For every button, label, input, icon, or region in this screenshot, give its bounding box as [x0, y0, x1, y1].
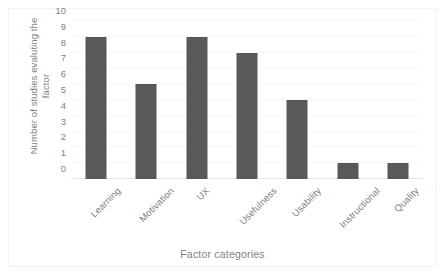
x-axis-category-labels: LearningMotivationUXUsefulnessUsabilityI… — [71, 183, 423, 243]
y-axis-tick-label: 2 — [61, 131, 66, 142]
bar[interactable] — [337, 163, 358, 179]
x-axis-tick-label: Motivation — [137, 185, 176, 224]
bar[interactable] — [287, 100, 308, 179]
y-axis-tick-label: 7 — [61, 52, 66, 63]
bar[interactable] — [236, 53, 257, 179]
y-axis-tick-label: 6 — [61, 68, 66, 79]
bar-slot — [71, 21, 121, 179]
bar[interactable] — [186, 37, 207, 179]
y-axis-tick-label: 0 — [61, 163, 66, 174]
y-axis-title: Number of studies evaluting the factor — [28, 6, 62, 166]
x-label-slot: Usability — [272, 183, 322, 243]
plot-area: 109876543210 — [71, 21, 423, 179]
bars-group — [71, 21, 423, 179]
bar-slot — [172, 21, 222, 179]
bar-slot — [373, 21, 423, 179]
y-axis-tick-label: 1 — [61, 147, 66, 158]
y-axis-title-line-2: factor — [40, 6, 52, 166]
y-axis-title-line-1: Number of studies evaluting the — [28, 6, 40, 166]
y-axis-tick-label: 10 — [55, 5, 66, 16]
bar-slot — [322, 21, 372, 179]
bar[interactable] — [136, 84, 157, 179]
bar[interactable] — [387, 163, 408, 179]
x-label-slot: Instructional — [322, 183, 372, 243]
x-axis-tick-label: UX — [194, 185, 211, 202]
bar-chart: Number of studies evaluting the factor 1… — [8, 8, 437, 267]
x-axis-title: Factor categories — [9, 248, 436, 260]
bar[interactable] — [86, 37, 107, 179]
y-axis-tick-label: 5 — [61, 84, 66, 95]
y-axis-tick-label: 8 — [61, 36, 66, 47]
x-label-slot: Quality — [373, 183, 423, 243]
y-axis-tick-label: 4 — [61, 99, 66, 110]
x-axis-tick-label: Learning — [88, 185, 122, 219]
x-label-slot: UX — [172, 183, 222, 243]
x-label-slot: Motivation — [121, 183, 171, 243]
x-label-slot: Learning — [71, 183, 121, 243]
bar-slot — [272, 21, 322, 179]
x-label-slot: Usefulness — [222, 183, 272, 243]
x-axis-tick-label: Usability — [290, 185, 324, 219]
y-axis-tick-label: 3 — [61, 115, 66, 126]
x-axis-tick-label: Quality — [392, 185, 421, 214]
bar-slot — [121, 21, 171, 179]
bar-slot — [222, 21, 272, 179]
y-axis-tick-label: 9 — [61, 20, 66, 31]
